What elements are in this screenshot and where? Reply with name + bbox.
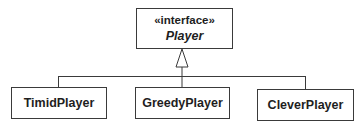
class-timid-player-box: TimidPlayer: [11, 87, 107, 119]
class-name: GreedyPlayer: [142, 96, 223, 110]
inheritance-arrowhead-icon: [176, 49, 188, 67]
class-name: TimidPlayer: [24, 96, 95, 110]
interface-name: Player: [166, 28, 204, 44]
interface-stereotype: «interface»: [154, 13, 215, 28]
class-name: CleverPlayer: [268, 98, 344, 112]
interface-player-box: «interface» Player: [136, 8, 233, 49]
class-clever-player-box: CleverPlayer: [257, 89, 354, 121]
class-greedy-player-box: GreedyPlayer: [135, 87, 230, 119]
